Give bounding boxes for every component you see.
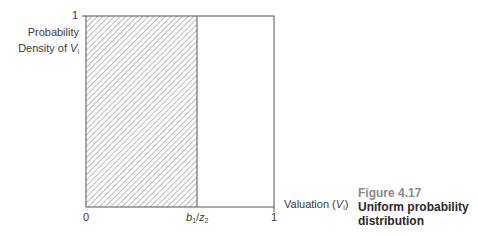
figure-number: Figure 4.17 [358,186,469,200]
x-axis-label: Valuation (Vi) [284,198,348,211]
x-tick-1: 1 [271,211,277,223]
shaded-region [86,16,197,207]
y-axis-label-line1: Probability [18,24,79,40]
figure-title-line1: Uniform probability [358,200,469,214]
y-axis-label: Probability Density of Vi [18,24,79,60]
figure-title-line2: distribution [358,214,469,228]
x-tick-b1-z2: b1/z2 [186,211,209,224]
figure-caption: Figure 4.17 Uniform probability distribu… [358,186,469,228]
y-axis-label-line2: Density of Vi [18,40,79,60]
x-tick-0: 0 [83,211,89,223]
y-tick-label: 1 [72,9,78,21]
